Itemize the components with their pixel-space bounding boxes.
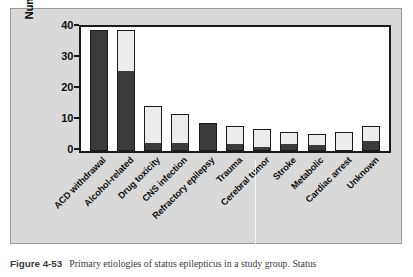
bar-stack[interactable] xyxy=(171,114,189,151)
bar-segment-light[interactable] xyxy=(309,135,325,145)
bar-group[interactable] xyxy=(171,114,189,151)
y-tick-label: 0 xyxy=(67,144,73,155)
bar-group[interactable] xyxy=(144,106,162,151)
plot-area xyxy=(79,25,391,153)
bar-stack[interactable] xyxy=(117,30,135,151)
scan-seam-artifact xyxy=(255,159,256,245)
bar-stack[interactable] xyxy=(308,134,326,151)
bar-stack[interactable] xyxy=(90,30,108,151)
bar-segment-dark[interactable] xyxy=(227,144,243,150)
bar-segment-light[interactable] xyxy=(118,31,134,71)
bar-segment-dark[interactable] xyxy=(363,141,379,150)
bar-stack[interactable] xyxy=(362,126,380,151)
x-axis-labels: ACD withdrawalAlcohol-relatedDrug toxici… xyxy=(79,153,391,241)
bars-layer xyxy=(81,27,389,151)
figure-caption: Figure 4-53Primary etiologies of status … xyxy=(10,258,408,277)
bar-segment-dark[interactable] xyxy=(172,143,188,150)
bar-group[interactable] xyxy=(90,30,108,151)
bar-stack[interactable] xyxy=(199,123,217,151)
figure-caption-text: Primary etiologies of status epilepticus… xyxy=(69,258,316,269)
y-tick-label: 30 xyxy=(61,51,73,62)
y-tick-label: 10 xyxy=(61,113,73,124)
bar-group[interactable] xyxy=(253,129,271,151)
bar-segment-light[interactable] xyxy=(254,130,270,147)
bar-segment-light[interactable] xyxy=(227,127,243,144)
y-axis-title: Number of patients xyxy=(23,0,37,35)
y-tick-label: 40 xyxy=(61,20,73,31)
bar-group[interactable] xyxy=(280,132,298,151)
bar-group[interactable] xyxy=(199,123,217,151)
bar-segment-dark[interactable] xyxy=(281,144,297,150)
bar-stack[interactable] xyxy=(226,126,244,151)
bar-segment-dark[interactable] xyxy=(200,124,216,150)
bar-stack[interactable] xyxy=(280,132,298,151)
bar-segment-light[interactable] xyxy=(336,133,352,150)
bar-stack[interactable] xyxy=(144,106,162,151)
y-axis-title-container: Number of patients xyxy=(27,21,43,153)
bar-stack[interactable] xyxy=(253,129,271,151)
bar-segment-light[interactable] xyxy=(363,127,379,141)
bar-group[interactable] xyxy=(117,30,135,151)
y-tick-label: 20 xyxy=(61,82,73,93)
bar-group[interactable] xyxy=(335,132,353,151)
bar-group[interactable] xyxy=(362,126,380,151)
bar-segment-light[interactable] xyxy=(281,133,297,144)
bar-segment-dark[interactable] xyxy=(91,31,107,150)
bar-segment-dark[interactable] xyxy=(309,145,325,150)
bar-segment-light[interactable] xyxy=(172,115,188,143)
y-axis: 010203040 xyxy=(51,19,79,159)
bar-segment-dark[interactable] xyxy=(254,147,270,150)
bar-segment-dark[interactable] xyxy=(118,71,134,150)
figure-panel: Number of patients 010203040 ACD withdra… xyxy=(10,8,402,244)
bar-segment-light[interactable] xyxy=(145,107,161,143)
bar-group[interactable] xyxy=(226,126,244,151)
bar-group[interactable] xyxy=(308,134,326,151)
figure-caption-label: Figure 4-53 xyxy=(10,258,62,269)
bar-stack[interactable] xyxy=(335,132,353,151)
bar-segment-dark[interactable] xyxy=(145,143,161,150)
x-axis-label: Cerebral tumor xyxy=(219,155,272,208)
